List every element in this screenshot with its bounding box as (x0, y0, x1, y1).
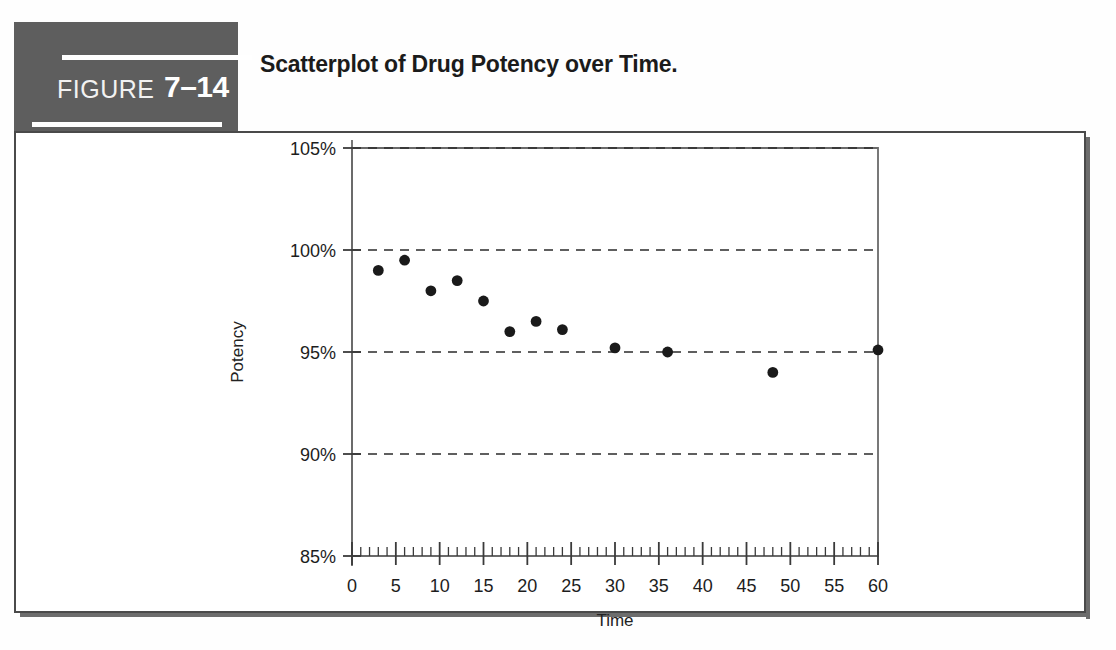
figure-title-text: Scatterplot of Drug Potency over Time. (260, 51, 678, 78)
header-rule-bottom (32, 122, 222, 127)
header-rule-top (62, 55, 252, 60)
figure-number: 7–14 (164, 70, 229, 104)
frame-shadow-right (1086, 137, 1090, 619)
figure-content-frame (14, 131, 1086, 613)
frame-shadow-bottom (20, 613, 1090, 617)
figure-title: Scatterplot of Drug Potency over Time. (260, 44, 1060, 84)
figure-container: FIGURE 7–14 Scatterplot of Drug Potency … (0, 0, 1116, 650)
figure-word: FIGURE (57, 75, 154, 104)
figure-label-band: FIGURE 7–14 (14, 22, 238, 132)
